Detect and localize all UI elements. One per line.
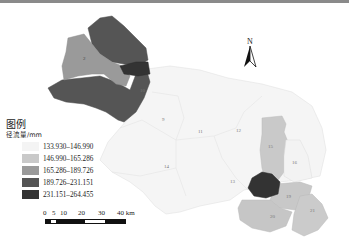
region-label-11: 11 <box>198 129 203 134</box>
scale-bar: 0 5 10 20 30 40 km <box>43 209 163 224</box>
region-label-14: 14 <box>164 164 170 169</box>
region-label-13: 13 <box>230 179 236 184</box>
scale-bar-graphic <box>45 219 126 224</box>
region-label-21: 21 <box>310 208 316 213</box>
scale-ticks: 0 5 10 20 30 40 km <box>43 209 163 218</box>
legend-unit: 径流量/mm <box>6 131 93 140</box>
region-label-15: 15 <box>268 144 274 149</box>
north-arrow: N <box>243 37 257 72</box>
legend-title: 图例 <box>6 119 93 130</box>
legend-item: 189.726–231.151 <box>6 177 93 188</box>
map-legend: 图例 径流量/mm 133.930–146.990 146.990–165.28… <box>6 119 93 200</box>
north-arrow-icon <box>243 46 257 68</box>
region-label-10: 10 <box>140 88 146 93</box>
legend-swatch-3 <box>22 166 39 175</box>
north-label: N <box>243 37 257 46</box>
region-label-19: 19 <box>286 194 292 199</box>
legend-swatch-2 <box>22 154 39 163</box>
region-label-12: 12 <box>236 128 242 133</box>
legend-item: 133.930–146.990 <box>6 141 93 152</box>
legend-swatch-5 <box>22 190 39 199</box>
legend-swatch-1 <box>22 142 39 151</box>
legend-swatch-4 <box>22 178 39 187</box>
region-label-20: 20 <box>270 214 276 219</box>
legend-item: 146.990–165.286 <box>6 153 93 164</box>
region-label-16: 16 <box>292 160 298 165</box>
legend-item: 165.286–189.726 <box>6 165 93 176</box>
legend-item: 231.151–264.455 <box>6 189 93 200</box>
